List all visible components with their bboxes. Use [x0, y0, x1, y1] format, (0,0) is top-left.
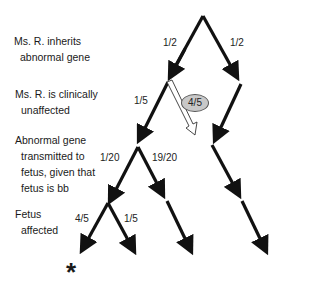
arrow-right-column-level3 [212, 145, 239, 195]
arrow-unaffected-yes [139, 82, 168, 140]
asterisk-marker: * [66, 259, 76, 285]
prob-transmit-yes: 1/20 [100, 152, 119, 163]
prob-transmit-no: 19/20 [152, 152, 177, 163]
prob-affected-yes: 4/5 [75, 213, 89, 224]
arrow-affected-no [108, 203, 134, 251]
prob-unaffected-yes: 1/5 [134, 95, 148, 106]
arrow-right-column-level4 [242, 201, 266, 251]
prob-unaffected-no-highlight: 4/5 [181, 94, 209, 112]
arrow-inherit-yes [170, 49, 185, 77]
prob-affected-no: 1/5 [124, 213, 138, 224]
arrow-affected-yes [82, 203, 108, 250]
prob-inherit-yes: 1/2 [163, 37, 177, 48]
arrow-middle-column-level4 [167, 201, 191, 251]
arrow-right-column-level2 [215, 84, 241, 140]
prob-inherit-no: 1/2 [230, 37, 244, 48]
